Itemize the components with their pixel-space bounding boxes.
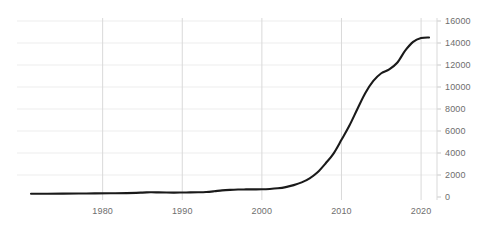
x-axis-tick-label: 2020 bbox=[411, 206, 432, 216]
line-chart: 0200040006000800010000120001400016000 19… bbox=[0, 0, 491, 232]
y-axis-tick-label: 12000 bbox=[445, 60, 471, 70]
y-axis-tick-label: 0 bbox=[445, 192, 450, 202]
y-axis-tick-label: 2000 bbox=[445, 170, 466, 180]
y-axis-tick-label: 16000 bbox=[445, 16, 471, 26]
x-axis-tick-label: 2000 bbox=[252, 206, 273, 216]
x-axis-tick-label: 1980 bbox=[92, 206, 113, 216]
y-axis-tick-marks bbox=[437, 21, 441, 197]
y-axis-tick-label: 14000 bbox=[445, 38, 471, 48]
data-series-line bbox=[31, 38, 429, 194]
x-axis-tick-label: 1990 bbox=[172, 206, 193, 216]
y-axis-tick-label: 4000 bbox=[445, 148, 466, 158]
horizontal-gridlines bbox=[17, 21, 437, 197]
chart-plot-area bbox=[0, 0, 491, 232]
y-axis-tick-label: 8000 bbox=[445, 104, 466, 114]
y-axis-tick-label: 6000 bbox=[445, 126, 466, 136]
x-axis-tick-label: 2010 bbox=[331, 206, 352, 216]
y-axis-tick-label: 10000 bbox=[445, 82, 471, 92]
